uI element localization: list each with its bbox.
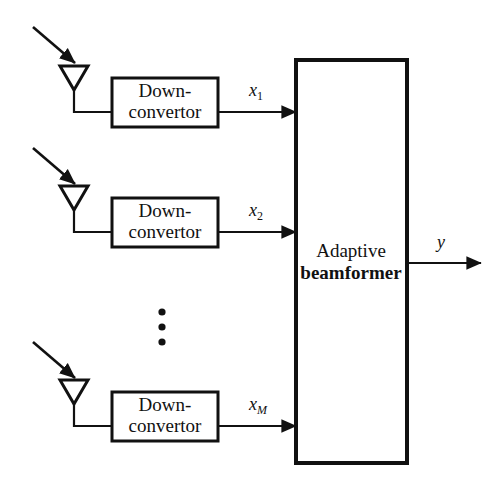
signal-label-1-base: x — [248, 80, 257, 100]
vertical-ellipsis-dot-3 — [158, 338, 165, 345]
diagram-background — [0, 0, 501, 493]
signal-label-m-base: x — [248, 394, 257, 414]
signal-label-2-subscript: 2 — [257, 209, 263, 223]
adaptive-beamformer-label-line2: beamformer — [300, 262, 402, 283]
block-diagram-canvas: Down- convertor x1 Down- convertor x2 — [0, 0, 501, 493]
vertical-ellipsis — [158, 308, 165, 345]
beamformer-output-label: y — [435, 232, 445, 252]
downconvertor-2-label-line1: Down- — [139, 200, 192, 221]
downconvertor-1-label-line2: convertor — [129, 101, 202, 122]
downconvertor-2-label-line2: convertor — [129, 221, 202, 242]
adaptive-beamformer-block: Adaptive beamformer — [296, 60, 407, 463]
downconvertor-m-label-line1: Down- — [139, 394, 192, 415]
adaptive-beamformer-label-line1: Adaptive — [316, 240, 386, 261]
downconvertor-1-label-line1: Down- — [139, 80, 192, 101]
signal-label-2-base: x — [248, 200, 257, 220]
vertical-ellipsis-dot-2 — [158, 323, 165, 330]
downconvertor-m-label-line2: convertor — [129, 415, 202, 436]
signal-label-1-subscript: 1 — [257, 89, 263, 103]
vertical-ellipsis-dot-1 — [158, 308, 165, 315]
signal-label-m-subscript: M — [256, 403, 268, 417]
diagram-svg: Down- convertor x1 Down- convertor x2 — [0, 0, 501, 493]
